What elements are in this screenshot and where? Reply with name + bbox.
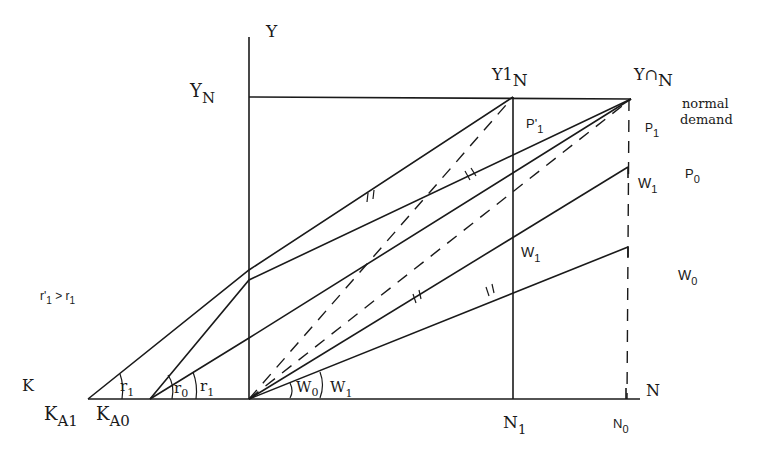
p1-prime-label: P'1 — [526, 116, 543, 135]
w1-mid-label: W1 — [521, 244, 540, 264]
k-axis-label: K — [22, 376, 35, 395]
condition-label: r'1 > r1 — [40, 289, 76, 306]
normal-demand-label-1: normal — [682, 96, 729, 111]
n0-label: N0 — [613, 416, 629, 435]
w1-angle-label: W1 — [330, 378, 352, 400]
ka0-label: KA0 — [96, 403, 130, 430]
w1-right-label: W1 — [638, 175, 657, 195]
y-axis-label: Y — [265, 21, 278, 41]
p1-label: P1 — [645, 121, 659, 139]
p0-label: P0 — [685, 166, 700, 185]
n1-label: N1 — [503, 412, 526, 437]
w0-arc — [290, 383, 292, 398]
economic-diagram: Y YN Y1N Y∩N normal demand P'1 P1 P0 W1 … — [0, 0, 765, 451]
w1-line — [249, 167, 628, 399]
r1-arc — [193, 372, 197, 399]
ka1-line-to-y1n — [88, 97, 513, 399]
n-axis-label: N — [646, 381, 660, 400]
y0n-label: Y∩N — [633, 65, 673, 90]
yn-label: YN — [189, 80, 215, 107]
r1-angle-label: r1 — [200, 377, 214, 399]
tick-marks — [367, 168, 494, 303]
w0-angle-label: W0 — [296, 378, 318, 399]
ka1-label: KA1 — [44, 403, 78, 430]
w0-line — [249, 247, 628, 399]
dashed-to-y1n — [249, 97, 513, 399]
w0-right-label: W0 — [678, 267, 697, 287]
w1-arc — [320, 372, 323, 398]
r0-angle-label: r0 — [174, 379, 188, 400]
y1n-label: Y1N — [491, 65, 528, 90]
ka0-r1-line-to-y0n — [150, 99, 631, 399]
yn-level-line — [249, 97, 631, 99]
normal-demand-label-2: demand — [680, 112, 733, 127]
